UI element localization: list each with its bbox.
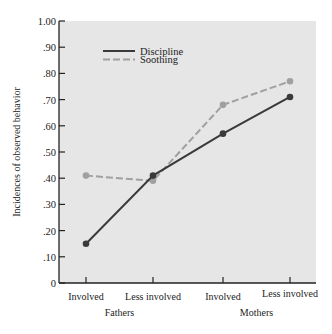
x-category-label: Less involved xyxy=(262,288,318,299)
data-point-soothing xyxy=(83,172,90,179)
y-tick-label: .70 xyxy=(43,95,56,106)
plot-area xyxy=(59,21,316,283)
x-group-label: Fathers xyxy=(105,307,135,318)
data-point-discipline xyxy=(150,172,157,179)
data-point-discipline xyxy=(220,130,227,137)
y-tick-label: .40 xyxy=(43,173,56,184)
x-category-label: Involved xyxy=(205,291,241,302)
y-tick-label: .30 xyxy=(43,199,56,210)
line-chart: 0.10.20.30.40.50.60.70.80.901.00 Involve… xyxy=(0,0,332,334)
x-group-label: Mothers xyxy=(240,307,273,318)
data-point-soothing xyxy=(287,78,294,85)
data-point-discipline xyxy=(287,94,294,101)
y-tick-label: .50 xyxy=(43,147,56,158)
y-tick-label: .10 xyxy=(43,252,56,263)
x-category-label: Less involved xyxy=(125,291,181,302)
y-tick-label: .80 xyxy=(43,68,56,79)
x-axis: InvolvedLess involvedInvolvedLess involv… xyxy=(59,277,318,318)
y-axis-title: Incidences of observed behavior xyxy=(11,86,22,216)
y-tick-label: .90 xyxy=(43,42,56,53)
y-tick-label: 0 xyxy=(51,278,56,289)
data-point-soothing xyxy=(220,102,227,109)
y-tick-label: 1.00 xyxy=(38,16,56,27)
x-category-label: Involved xyxy=(68,291,104,302)
data-point-discipline xyxy=(83,240,90,247)
y-tick-label: .60 xyxy=(43,121,56,132)
legend-label-soothing: Soothing xyxy=(140,54,179,65)
y-tick-label: .20 xyxy=(43,226,56,237)
